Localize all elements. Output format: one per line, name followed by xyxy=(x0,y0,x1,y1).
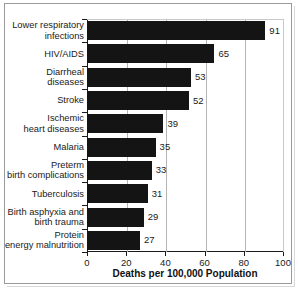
bar xyxy=(87,138,156,157)
y-axis-tick xyxy=(82,159,87,160)
x-axis-tick xyxy=(126,252,127,256)
category-label: Ischemic heart diseases xyxy=(24,113,84,134)
x-axis-title: Deaths per 100,000 Population xyxy=(87,268,283,280)
x-axis-tick-label: 40 xyxy=(150,257,180,268)
category-label: Stroke xyxy=(57,95,84,106)
bar-value-label: 31 xyxy=(152,189,163,199)
bar-value-label: 29 xyxy=(148,212,159,222)
bar-row: 65 xyxy=(87,44,283,63)
y-axis-tick xyxy=(82,182,87,183)
bar xyxy=(87,21,265,40)
bar-value-label: 65 xyxy=(218,49,229,59)
bar-value-label: 33 xyxy=(156,166,167,176)
category-label: Lower respiratory infections xyxy=(12,20,84,41)
y-axis-tick xyxy=(82,89,87,90)
bar-row: 29 xyxy=(87,208,283,227)
x-axis-tick xyxy=(205,252,206,256)
x-axis-tick-label: 20 xyxy=(111,257,141,268)
y-axis-tick xyxy=(82,136,87,137)
bar-row: 91 xyxy=(87,21,283,40)
bar-chart: 91655352393533312927 Lower respiratory i… xyxy=(0,0,298,295)
bar-row: 52 xyxy=(87,91,283,110)
y-axis-tick xyxy=(82,19,87,20)
category-label: Malaria xyxy=(54,142,84,153)
bar xyxy=(87,208,144,227)
y-axis-tick xyxy=(82,229,87,230)
category-label: Preterm birth complications xyxy=(7,160,84,181)
bar xyxy=(87,184,148,203)
bar-value-label: 39 xyxy=(167,119,178,129)
bar xyxy=(87,114,163,133)
bar xyxy=(87,68,191,87)
x-axis-tick xyxy=(87,252,88,256)
category-label: Protein energy malnutrition xyxy=(5,230,84,251)
bar xyxy=(87,44,214,63)
plot-frame-right xyxy=(283,19,284,253)
bar xyxy=(87,91,189,110)
x-axis-tick-label: 60 xyxy=(190,257,220,268)
category-label: Birth asphyxia and birth trauma xyxy=(8,207,85,228)
category-label: Tuberculosis xyxy=(32,189,84,200)
bar-row: 53 xyxy=(87,68,283,87)
category-label: HIV/AIDS xyxy=(44,49,84,60)
plot-frame-top xyxy=(87,19,283,20)
x-axis-tick xyxy=(283,252,284,256)
bar xyxy=(87,161,152,180)
bar-value-label: 52 xyxy=(193,96,204,106)
bar-row: 33 xyxy=(87,161,283,180)
x-axis-tick xyxy=(244,252,245,256)
bar xyxy=(87,231,140,250)
x-axis-tick xyxy=(165,252,166,256)
bar-value-label: 27 xyxy=(144,236,155,246)
bar-value-label: 91 xyxy=(269,26,280,36)
y-axis-tick xyxy=(82,112,87,113)
bar-value-label: 53 xyxy=(195,73,206,83)
category-label: Diarrheal diseases xyxy=(46,67,84,88)
y-axis-tick xyxy=(82,66,87,67)
bar-value-label: 35 xyxy=(160,142,171,152)
bar-row: 39 xyxy=(87,114,283,133)
y-axis-tick xyxy=(82,42,87,43)
bar-row: 27 xyxy=(87,231,283,250)
x-axis-tick-label: 0 xyxy=(72,257,102,268)
bar-row: 31 xyxy=(87,184,283,203)
x-axis-tick-label: 80 xyxy=(229,257,259,268)
bar-row: 35 xyxy=(87,138,283,157)
y-axis-tick xyxy=(82,205,87,206)
x-axis-tick-label: 100 xyxy=(268,257,298,268)
